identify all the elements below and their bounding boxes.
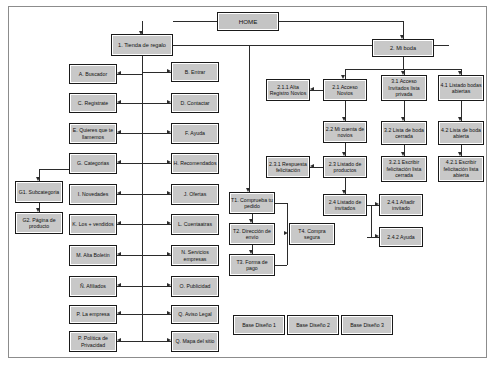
connector-line <box>279 21 403 22</box>
node-qm[interactable]: Q. Mapa del sitio <box>171 331 219 352</box>
connector-arrowhead <box>117 71 121 75</box>
node-t4[interactable]: T4. Compra segura <box>289 223 335 245</box>
diagram-frame: HOME1. Tienda de regalo2. Mi bodaA. Busc… <box>8 6 487 358</box>
node-g2[interactable]: G2. Página de producto <box>15 212 63 234</box>
node-i[interactable]: I. Novedades <box>69 184 117 205</box>
node-enye[interactable]: Ñ. Afiliados <box>69 276 117 297</box>
connector-arrowhead <box>310 87 314 91</box>
node-label: Ñ. Afiliados <box>71 283 115 290</box>
node-label: P. La empresa <box>71 311 115 318</box>
node-label: D. Contactar <box>173 100 217 107</box>
node-n41[interactable]: 4.1 Listado bodas abiertas <box>438 75 484 101</box>
node-label: G. Categorias <box>71 160 115 167</box>
node-home[interactable]: HOME <box>217 12 279 31</box>
connector-arrowhead <box>117 160 121 164</box>
node-c[interactable]: C. Registrate <box>69 93 117 113</box>
node-label: P. Política de Privacidad <box>71 335 115 348</box>
node-n24[interactable]: 2.4 Listado de invitados <box>323 194 367 216</box>
node-n231[interactable]: 2.3.1 Respuesta felicitación <box>266 156 310 178</box>
node-n42[interactable]: 4.2 Lista de boda abierta <box>438 121 484 145</box>
node-label: Base Diseño 3 <box>343 322 391 329</box>
node-label: 2.1.1 Alta Registro Novios <box>268 84 308 97</box>
connector-arrowhead <box>284 231 288 235</box>
node-label: F. Ayuda <box>173 130 217 137</box>
node-n2[interactable]: 2. Mi boda <box>372 39 434 57</box>
node-bd3[interactable]: Base Diseño 3 <box>341 315 393 335</box>
node-n321[interactable]: 3.2.1 Escribir felicitación lista cerrad… <box>381 156 427 182</box>
node-bd2[interactable]: Base Diseño 2 <box>287 315 339 335</box>
node-label: 2.4 Listado de invitados <box>325 199 365 212</box>
node-o[interactable]: O. Publicidad <box>171 276 219 297</box>
connector-line <box>275 265 287 266</box>
connector-arrowhead <box>117 191 121 195</box>
connector-line <box>403 57 404 69</box>
node-n421[interactable]: 4.2.1 Escribir felicitación lista abiert… <box>438 156 484 182</box>
node-d[interactable]: D. Contactar <box>171 93 219 113</box>
node-k[interactable]: K. Los + vendidos <box>69 214 117 235</box>
node-label: 1. Tienda de regalo <box>113 42 171 49</box>
node-g1[interactable]: G1. Subcategoria <box>15 181 63 203</box>
node-label: Q. Aviso Legal <box>173 311 217 318</box>
node-label: T3. Forma de pago <box>231 259 273 272</box>
node-pp[interactable]: P. Política de Privacidad <box>69 331 117 352</box>
node-j[interactable]: J. Ofertas <box>171 184 219 205</box>
node-g[interactable]: G. Categorias <box>69 153 117 174</box>
node-n21[interactable]: 2.1 Acceso Novios <box>323 79 367 101</box>
node-b[interactable]: B. Entrar <box>171 62 219 82</box>
node-n1[interactable]: 1. Tienda de regalo <box>111 34 173 56</box>
node-label: 3.2 Lista de boda cerrada <box>383 127 425 140</box>
node-label: M. Alta Boletín <box>71 252 115 259</box>
node-label: O. Publicidad <box>173 283 217 290</box>
node-n242[interactable]: 2.4.2 Ayuda <box>379 227 423 247</box>
node-n241[interactable]: 2.4.1 Añadir invitado <box>379 194 423 216</box>
node-e[interactable]: E. Quieres que te llamemos <box>69 123 117 144</box>
node-label: C. Registrate <box>71 100 115 107</box>
node-t3[interactable]: T3. Forma de pago <box>229 254 275 276</box>
connector-line <box>287 234 288 265</box>
connector-arrowhead <box>310 164 314 168</box>
node-label: T2. Dirección de envío <box>231 228 273 241</box>
node-label: I. Novedades <box>71 191 115 198</box>
node-label: Base Diseño 1 <box>235 322 283 329</box>
connector-arrowhead <box>117 252 121 256</box>
node-n211[interactable]: 2.1.1 Alta Registro Novios <box>266 79 310 101</box>
node-label: 2.4.2 Ayuda <box>381 234 421 241</box>
connector-line <box>345 69 461 70</box>
node-label: 4.2 Lista de boda abierta <box>440 127 482 140</box>
node-label: T1. Comprueba tu pedido <box>231 197 273 210</box>
node-t2[interactable]: T2. Dirección de envío <box>229 223 275 245</box>
node-f[interactable]: F. Ayuda <box>171 123 219 144</box>
node-n23[interactable]: 2.3 Listado de productos <box>323 156 367 178</box>
node-a[interactable]: A. Buscador <box>69 64 117 84</box>
node-bd1[interactable]: Base Diseño 1 <box>233 315 285 335</box>
node-label: 2. Mi boda <box>374 45 432 52</box>
connector-line <box>39 169 69 170</box>
node-p[interactable]: P. La empresa <box>69 305 117 324</box>
node-n32[interactable]: 3.2 Lista de boda cerrada <box>381 121 427 145</box>
node-label: 4.1 Listado bodas abiertas <box>440 82 482 95</box>
connector-line <box>287 203 288 234</box>
node-q[interactable]: Q. Aviso Legal <box>171 305 219 324</box>
node-n31[interactable]: 3.1 Acceso Invitados lista privada <box>381 75 427 101</box>
node-label: Q. Mapa del sitio <box>173 338 217 345</box>
node-label: G2. Página de producto <box>17 217 61 230</box>
node-m[interactable]: M. Alta Boletín <box>69 245 117 266</box>
node-h[interactable]: H. Recomendados <box>171 153 219 174</box>
node-label: G1. Subcategoria <box>17 189 61 196</box>
connector-arrowhead <box>117 311 121 315</box>
node-label: 2.1 Acceso Novios <box>325 84 365 97</box>
node-n[interactable]: N. Servicios empresas <box>171 245 219 266</box>
node-label: 3.1 Acceso Invitados lista privada <box>383 78 425 98</box>
node-label: 2.3.1 Respuesta felicitación <box>268 161 308 174</box>
node-l[interactable]: L. Cuentaatras <box>171 214 219 235</box>
node-label: H. Recomendados <box>173 160 217 167</box>
connector-line <box>371 205 372 237</box>
node-t1[interactable]: T1. Comprueba tu pedido <box>229 192 275 214</box>
node-label: 4.2.1 Escribir felicitación lista abiert… <box>440 159 482 179</box>
node-label: N. Servicios empresas <box>173 249 217 262</box>
connector-arrowhead <box>117 338 121 342</box>
connector-arrowhead <box>117 221 121 225</box>
connector-arrowhead <box>117 283 121 287</box>
node-n22[interactable]: 2.2 Mi cuenta de novios <box>323 121 367 143</box>
node-label: T4. Compra segura <box>291 228 333 241</box>
